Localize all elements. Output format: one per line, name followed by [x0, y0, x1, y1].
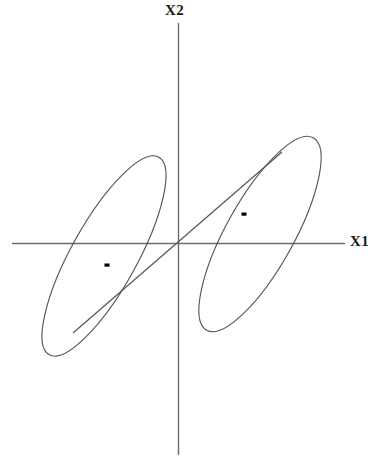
x-axis-label: X1 — [350, 234, 369, 249]
diagram-svg — [0, 0, 374, 469]
axes-group — [12, 23, 345, 455]
y-axis-label: X2 — [165, 3, 184, 18]
class-2-centroid-dot — [242, 213, 247, 216]
figure-canvas: X2 X1 — [0, 0, 374, 469]
class-2-ellipse — [177, 121, 343, 346]
class-1-centroid-dot — [105, 264, 110, 267]
